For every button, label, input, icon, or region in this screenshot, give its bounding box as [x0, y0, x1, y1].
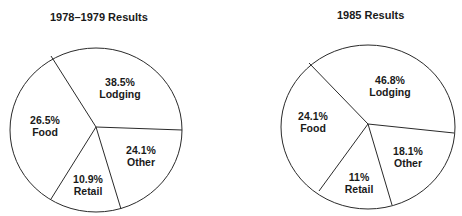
slice-label-other: 24.1%Other [126, 144, 156, 168]
slice-label-lodging: 38.5%Lodging [99, 76, 140, 100]
slice-label-other: 18.1%Other [393, 145, 423, 169]
slice-label-retail: 11%Retail [345, 171, 374, 195]
slice-label-lodging: 46.8%Lodging [369, 74, 410, 98]
slice-label-retail: 10.9%Retail [73, 173, 103, 197]
pie-chart-1985: 1985 Results 46.8%Lodging 18.1%Other 11%… [231, 0, 462, 216]
slice-label-food: 26.5%Food [30, 114, 60, 138]
slice-label-food: 24.1%Food [298, 110, 328, 134]
pie-graphic [0, 0, 231, 216]
pie-chart-1978-1979: 1978–1979 Results 38.5%Lodging 24.1%Othe… [0, 0, 231, 216]
